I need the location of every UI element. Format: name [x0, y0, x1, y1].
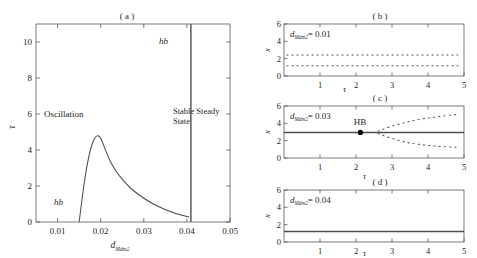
panel-d-xtick-3: 3 — [390, 246, 394, 256]
panel-c-xtick-3: 3 — [390, 162, 394, 172]
panel-c-hopf-bifurcation-point — [358, 130, 363, 135]
svg-text:dMdm2: dMdm2 — [111, 240, 130, 252]
panel-c-ytick-2: 2 — [277, 136, 281, 146]
panel-b-ytick-0: 0 — [277, 71, 281, 81]
panel-c-xtick-2: 2 — [354, 162, 358, 172]
panel-a-xlabel: dMdm2 — [111, 240, 130, 252]
panel-a-ytick-8: 8 — [28, 73, 33, 83]
panel-c-ytick-4: 4 — [277, 118, 282, 128]
panel-a-ylabel: τ — [7, 125, 17, 129]
panel-a-xtick-002: 0.02 — [93, 226, 109, 236]
panel-c: ( c ) 0 2 4 6 — [262, 93, 466, 181]
panel-b-y-axis: 0 2 4 6 — [277, 19, 288, 81]
panel-a-hb-label-upper: hb — [159, 36, 169, 46]
panel-d-y-axis: 0 2 4 6 — [277, 185, 288, 247]
panel-a-ytick-4: 4 — [28, 145, 33, 155]
panel-a: ( a ) 0 2 4 6 8 — [7, 11, 238, 252]
panel-b-x-axis: 1 2 3 4 5 — [318, 24, 466, 90]
panel-b-ytick-4: 4 — [277, 36, 282, 46]
panel-a-hb-left-curve — [79, 136, 189, 222]
panel-d-xtick-4: 4 — [426, 246, 431, 256]
panel-d: ( d ) 0 2 4 6 — [262, 177, 466, 258]
panel-a-region-stable-line1: Stable Steady — [173, 106, 220, 116]
panel-d-ytick-2: 2 — [277, 220, 281, 230]
panel-b-xtick-2: 2 — [354, 80, 358, 90]
panel-c-oscillation-min-branch — [378, 134, 459, 148]
panel-b-ylabel: x — [262, 48, 272, 53]
panel-b-xtick-3: 3 — [390, 80, 394, 90]
panel-d-annotation-eq: = 0.04 — [308, 195, 332, 205]
panel-c-annotation: dMdm2= 0.03 — [290, 111, 331, 122]
panel-d-ytick-4: 4 — [277, 202, 282, 212]
panel-a-xtick-001: 0.01 — [50, 226, 66, 236]
panel-a-x-axis: 0.01 0.02 0.03 0.04 0.05 — [50, 24, 239, 236]
panel-c-annotation-sub: Mdm2 — [294, 116, 309, 122]
panel-c-hb-label: HB — [354, 117, 367, 127]
panel-b-xtick-1: 1 — [318, 80, 322, 90]
panel-d-xtick-1: 1 — [318, 246, 322, 256]
panel-d-x-axis: 1 2 3 4 5 — [318, 190, 466, 256]
panel-b: ( b ) 0 2 4 6 — [262, 11, 466, 94]
panel-a-ytick-10: 10 — [23, 37, 33, 47]
panel-b-annotation: dMdm2= 0.01 — [290, 29, 331, 40]
figure-svg: ( a ) 0 2 4 6 8 — [0, 0, 477, 258]
panel-d-title: ( d ) — [373, 177, 388, 187]
panel-d-xtick-5: 5 — [462, 246, 466, 256]
panel-d-annotation: dMdm2= 0.04 — [290, 195, 331, 206]
panel-b-title: ( b ) — [373, 11, 388, 21]
panel-c-ylabel: x — [262, 130, 272, 135]
panel-b-annotation-sub: Mdm2 — [294, 34, 309, 40]
panel-c-oscillation-max-branch — [378, 114, 459, 131]
panel-a-hb-label-lower: hb — [54, 197, 64, 207]
panel-a-ytick-6: 6 — [28, 109, 33, 119]
panel-a-xtick-003: 0.03 — [136, 226, 152, 236]
panel-a-xlabel-sub: Mdm2 — [114, 246, 129, 252]
panel-b-ytick-6: 6 — [277, 19, 281, 29]
panel-b-ytick-2: 2 — [277, 54, 281, 64]
panel-d-xlabel: τ — [363, 248, 367, 258]
panel-c-annotation-eq: = 0.03 — [308, 111, 332, 121]
panel-d-annotation-sub: Mdm2 — [294, 200, 309, 206]
panel-c-xtick-5: 5 — [462, 162, 466, 172]
panel-d-ytick-0: 0 — [277, 237, 281, 247]
panel-a-region-oscillation: Oscillation — [44, 109, 84, 119]
panel-a-plot-frame — [36, 24, 230, 222]
panel-a-xtick-005: 0.05 — [222, 226, 238, 236]
panel-c-xtick-1: 1 — [318, 162, 322, 172]
panel-d-ylabel: x — [262, 214, 272, 219]
panel-a-ytick-0: 0 — [28, 217, 33, 227]
panel-b-annotation-eq: = 0.01 — [308, 29, 331, 39]
panel-d-xtick-2: 2 — [354, 246, 358, 256]
panel-c-ytick-6: 6 — [277, 101, 281, 111]
panel-b-xtick-4: 4 — [426, 80, 431, 90]
panel-a-title: ( a ) — [120, 11, 135, 21]
panel-a-region-stable-line2: State — [173, 116, 190, 126]
panel-c-title: ( c ) — [373, 93, 388, 103]
panel-a-xtick-004: 0.04 — [179, 226, 195, 236]
panel-d-ytick-6: 6 — [277, 185, 281, 195]
panel-b-xtick-5: 5 — [462, 80, 466, 90]
figure-container: ( a ) 0 2 4 6 8 — [0, 0, 477, 258]
panel-b-xlabel: τ — [343, 84, 347, 94]
panel-c-xtick-4: 4 — [426, 162, 431, 172]
panel-c-ytick-0: 0 — [277, 153, 281, 163]
panel-c-xlabel: τ — [363, 171, 367, 181]
panel-a-ytick-2: 2 — [28, 181, 33, 191]
